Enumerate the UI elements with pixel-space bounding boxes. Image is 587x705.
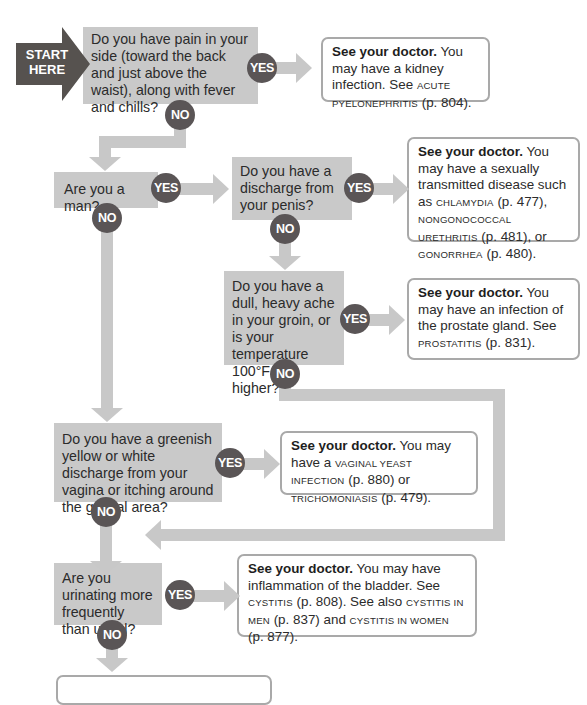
- connector: [243, 458, 265, 470]
- question-side-pain: Do you have pain in your side (toward th…: [83, 27, 258, 104]
- connector: [99, 136, 111, 158]
- yes-badge: YES: [340, 304, 370, 334]
- yes-badge: YES: [247, 53, 277, 83]
- answer-cystitis: See your doctor. You may have inflammati…: [237, 554, 477, 637]
- arrow-right-icon: [213, 174, 229, 204]
- connector: [99, 136, 186, 148]
- no-badge: NO: [270, 359, 300, 389]
- arrow-down-icon: [96, 658, 128, 672]
- arrow-left-icon: [145, 520, 161, 550]
- connector: [493, 389, 505, 541]
- arrow-down-icon: [90, 561, 122, 575]
- arrow-right-icon: [296, 53, 312, 83]
- yes-badge: YES: [165, 580, 195, 610]
- yes-badge: YES: [151, 173, 181, 203]
- start-here-label: START HERE: [18, 47, 76, 77]
- connector: [193, 590, 225, 602]
- arrow-right-icon: [264, 449, 280, 479]
- arrow-down-icon: [269, 256, 301, 270]
- answer-sti: See your doctor. You may have a sexually…: [407, 137, 580, 242]
- no-badge: NO: [91, 497, 121, 527]
- no-badge: NO: [165, 100, 195, 130]
- answer-prostatitis: See your doctor. You may have an infecti…: [407, 278, 580, 360]
- question-penis-discharge: Do you have a discharge from your penis?: [232, 157, 352, 220]
- answer-yeast-infection: See your doctor. You may have a vaginal …: [280, 431, 478, 495]
- connector: [160, 529, 505, 541]
- no-badge: NO: [97, 620, 127, 650]
- arrow-right-icon: [393, 174, 409, 204]
- yes-badge: YES: [215, 448, 245, 478]
- question-groin-ache-fever: Do you have a dull, heavy ache in your g…: [224, 271, 344, 365]
- arrow-right-icon: [224, 581, 240, 611]
- connector: [100, 523, 112, 563]
- connector: [368, 314, 390, 326]
- connector: [178, 183, 214, 195]
- connector: [279, 389, 505, 401]
- connector: [275, 62, 297, 74]
- arrow-down-icon: [91, 408, 123, 422]
- connector: [372, 183, 394, 195]
- connector: [101, 230, 113, 410]
- arrow-down-icon: [89, 157, 121, 171]
- answer-kidney-infection: See your doctor. You may have a kidney i…: [321, 37, 490, 102]
- arrow-right-icon: [389, 305, 405, 335]
- yes-badge: YES: [344, 173, 374, 203]
- no-badge: NO: [92, 203, 122, 233]
- question-vaginal-discharge: Do you have a greenish yellow or white d…: [54, 423, 222, 502]
- no-badge: NO: [270, 214, 300, 244]
- answer-next-partial: [56, 675, 272, 705]
